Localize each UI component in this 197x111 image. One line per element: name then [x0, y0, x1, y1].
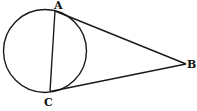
circle: [4, 10, 87, 93]
point-label-c: C: [44, 96, 53, 109]
tangent-ab: [55, 11, 186, 64]
geometry-diagram: A B C: [0, 0, 197, 111]
chord-ac: [50, 11, 55, 92]
point-label-b: B: [187, 58, 196, 71]
tangent-cb: [50, 64, 186, 92]
point-label-a: A: [53, 0, 63, 12]
